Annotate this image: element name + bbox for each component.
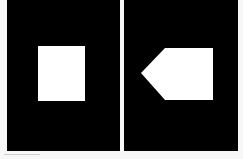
footer-divider — [4, 154, 40, 155]
white-pentagon-shape — [124, 0, 238, 151]
right-panel — [124, 0, 238, 151]
white-square-shape — [38, 46, 85, 101]
left-panel — [7, 0, 120, 151]
